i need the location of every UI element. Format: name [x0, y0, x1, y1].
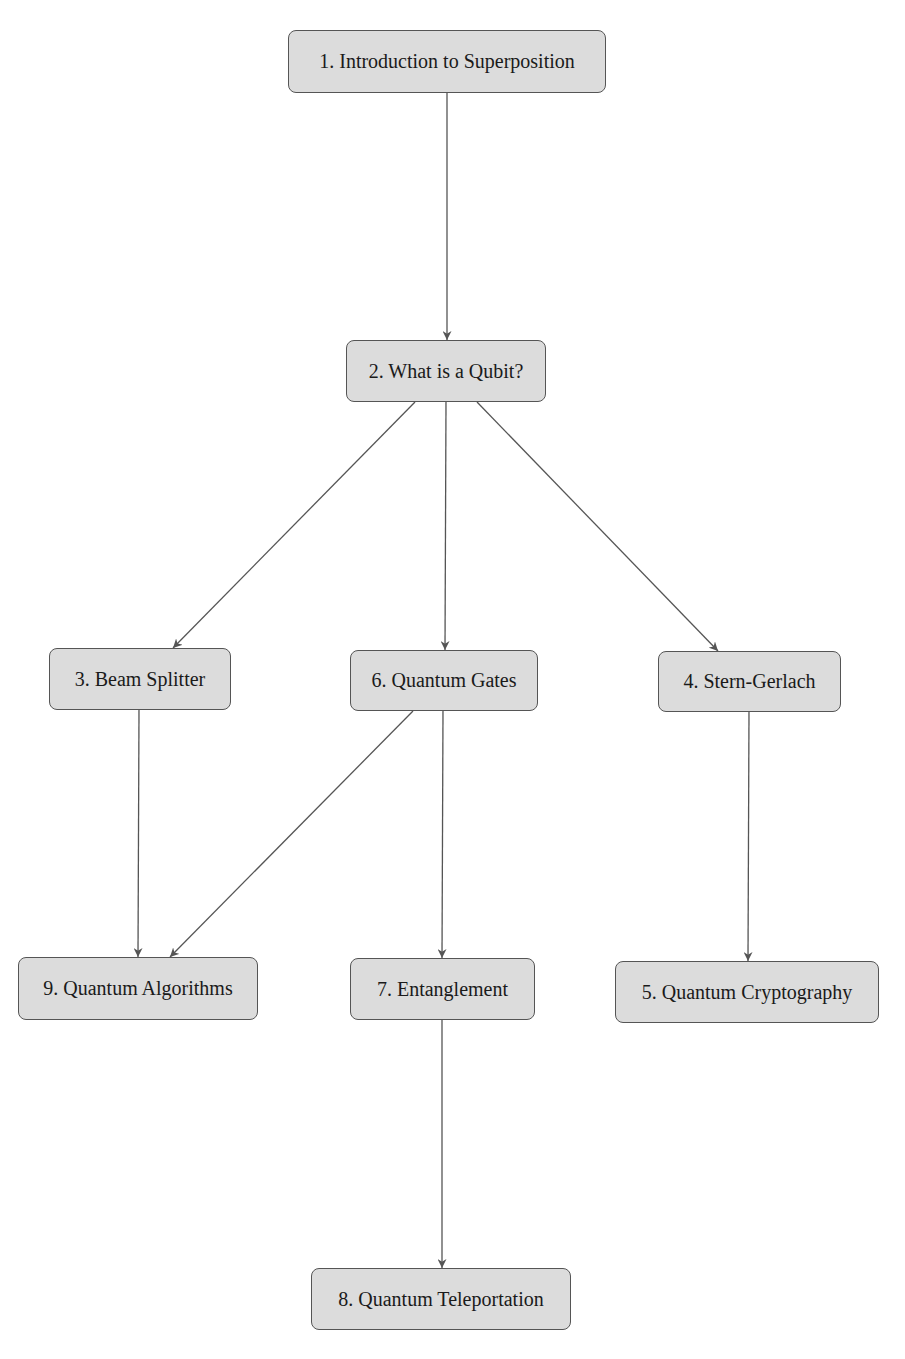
node-label: 6. Quantum Gates — [372, 669, 517, 692]
node-label: 4. Stern-Gerlach — [683, 670, 815, 693]
edge-n2-to-n6 — [445, 402, 446, 650]
node-n7[interactable]: 7. Entanglement — [350, 958, 535, 1020]
node-n4[interactable]: 4. Stern-Gerlach — [658, 651, 841, 712]
node-label: 9. Quantum Algorithms — [43, 977, 232, 1000]
node-n6[interactable]: 6. Quantum Gates — [350, 650, 538, 711]
edge-n6-to-n9 — [170, 711, 413, 957]
node-n2[interactable]: 2. What is a Qubit? — [346, 340, 546, 402]
edge-n2-to-n4 — [477, 402, 718, 651]
node-label: 5. Quantum Cryptography — [642, 981, 853, 1004]
node-label: 7. Entanglement — [377, 978, 508, 1001]
node-n9[interactable]: 9. Quantum Algorithms — [18, 957, 258, 1020]
node-label: 1. Introduction to Superposition — [319, 50, 575, 73]
node-label: 8. Quantum Teleportation — [338, 1288, 543, 1311]
node-n8[interactable]: 8. Quantum Teleportation — [311, 1268, 571, 1330]
node-n1[interactable]: 1. Introduction to Superposition — [288, 30, 606, 93]
node-n5[interactable]: 5. Quantum Cryptography — [615, 961, 879, 1023]
node-label: 2. What is a Qubit? — [369, 360, 524, 383]
edge-n3-to-n9 — [138, 710, 139, 957]
edge-n4-to-n5 — [748, 712, 749, 961]
node-n3[interactable]: 3. Beam Splitter — [49, 648, 231, 710]
edge-n2-to-n3 — [173, 402, 415, 648]
edge-n6-to-n7 — [442, 711, 443, 958]
node-label: 3. Beam Splitter — [75, 668, 206, 691]
